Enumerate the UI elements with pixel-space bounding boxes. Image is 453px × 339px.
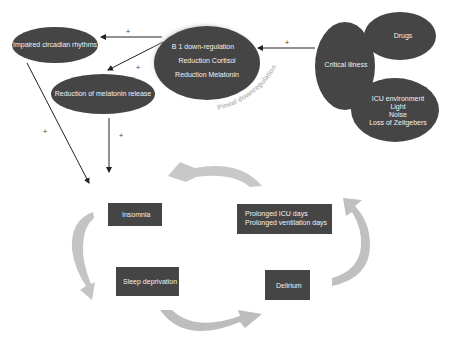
node-label-line2: Light	[390, 103, 405, 111]
node-reduction-melatonin-release: Reduction of melatonin release	[51, 74, 155, 114]
box-label: Sleep deprivation	[123, 278, 177, 286]
node-label-line1: ICU environment	[372, 95, 425, 102]
cycle-arrow-top	[168, 162, 262, 187]
diagram-canvas: + + + + + Impaired circadian rhythms Red…	[0, 0, 453, 339]
cycle-box-prolonged: Prolonged ICU days Prolonged ventilation…	[237, 204, 332, 234]
plus-sign: +	[43, 128, 47, 135]
node-label: Critical illness	[325, 61, 368, 68]
plus-sign: +	[119, 132, 123, 139]
node-label: Reduction of melatonin release	[55, 90, 152, 97]
plus-sign: +	[126, 28, 130, 35]
box-label: Delirium	[276, 282, 302, 289]
node-label-line3: Noise	[389, 111, 407, 118]
cycle-box-insomnia: Insomnia	[108, 203, 162, 226]
box-label-line2: Prolonged ventilation days	[245, 219, 328, 227]
node-impaired-circadian-rhythms: Impaired circadian rhythms	[12, 27, 98, 63]
cycle-box-delirium: Delirium	[265, 270, 310, 300]
node-label: Drugs	[394, 32, 413, 40]
cycle-arrow-bottom	[160, 310, 262, 331]
node-label-line4: Loss of Zeitgebers	[369, 119, 427, 127]
node-label: Impaired circadian rhythms	[13, 41, 98, 49]
cycle-arrow-right	[332, 198, 370, 286]
node-label-line2: Reduction Cortisol	[178, 57, 236, 64]
plus-sign: +	[285, 39, 289, 46]
node-icu-environment	[351, 78, 439, 142]
cycle-arrows	[72, 162, 370, 331]
plus-sign: +	[136, 64, 140, 71]
box-label-line1: Prolonged ICU days	[245, 210, 308, 218]
cycle-box-sleep-deprivation: Sleep deprivation	[116, 267, 179, 296]
box-label: Insomnia	[122, 211, 151, 218]
node-cluster-causes: Critical illness Drugs ICU environment L…	[315, 12, 439, 142]
cycle-arrow-left	[72, 212, 95, 300]
node-label-line1: B 1 down-regulation	[172, 43, 234, 51]
node-b1-downregulation: B 1 down-regulation Reduction Cortisol R…	[148, 21, 262, 101]
node-label-line3: Reduction Melatonin	[175, 71, 239, 78]
